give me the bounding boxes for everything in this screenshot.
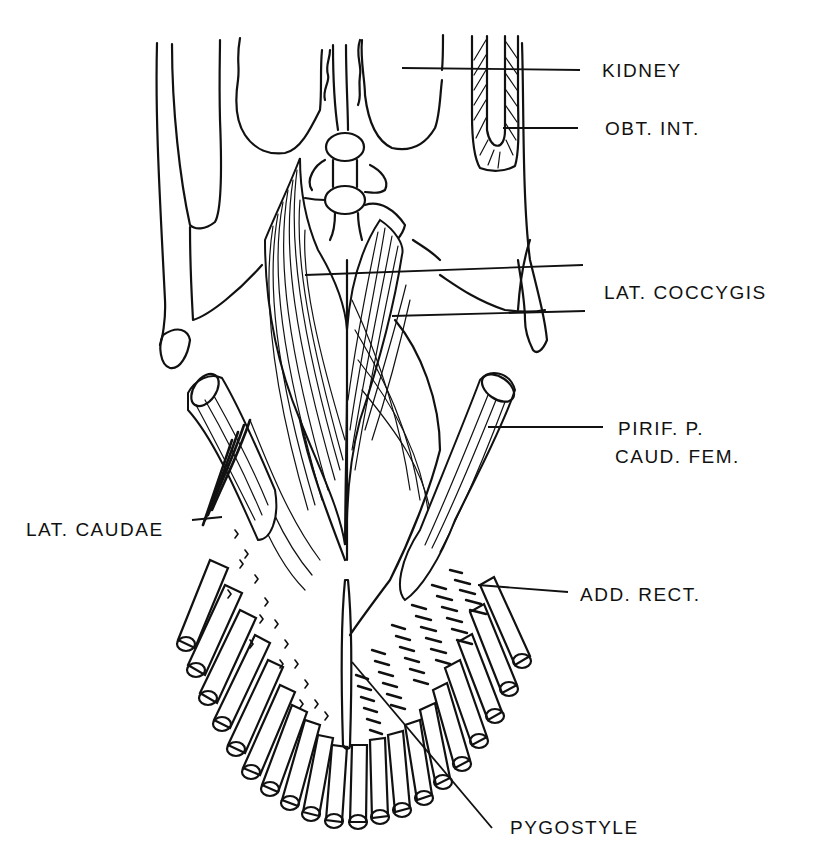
label-lat-coccygis: LAT. COCCYGIS [604, 282, 767, 304]
label-lat-caudae: LAT. CAUDAE [26, 519, 164, 541]
label-add-rect: ADD. RECT. [580, 584, 701, 606]
pygostyle-bone [342, 580, 352, 749]
rectrices-feathers [177, 560, 531, 829]
obturator-internus [472, 36, 518, 171]
lat-coccygis-muscle [265, 158, 410, 545]
anatomy-drawing [0, 0, 836, 861]
label-obt-int: OBT. INT. [605, 118, 700, 140]
label-pirif-p: PIRIF. P. [618, 418, 704, 440]
label-pygostyle: PYGOSTYLE [510, 817, 639, 839]
label-caud-fem: CAUD. FEM. [615, 446, 740, 468]
label-kidney: KIDNEY [602, 60, 682, 82]
